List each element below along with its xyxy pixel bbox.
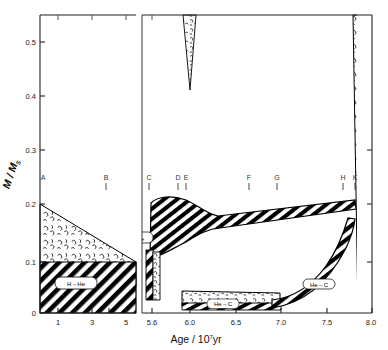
x-tick-label: 8.0 <box>366 318 376 327</box>
x-tick-label: 6.0 <box>185 318 195 327</box>
y-tick-label: 0.5 <box>26 38 36 47</box>
x-tick-label: 5 <box>124 318 128 327</box>
x-axis-title: Age / 107yr <box>170 333 222 345</box>
x-tick-label: 5.6 <box>147 318 157 327</box>
figure-canvas: H→He H→He He→C He→C <box>0 0 388 350</box>
kippenhahn-figure: H→He H→He He→C He→C <box>0 0 388 350</box>
phase-marker-label: D <box>175 174 180 181</box>
region-small-shell-stipple-near-C <box>153 252 160 300</box>
region-label-text: H→He <box>67 281 86 287</box>
region-small-shell-near-C <box>146 250 153 300</box>
x-tick-label: 7.5 <box>322 318 332 327</box>
phase-marker-label: B <box>104 174 109 181</box>
region-label-text: He→C <box>310 282 329 288</box>
phase-marker-A: A <box>41 174 46 181</box>
region-label-text: He→C <box>214 301 233 307</box>
region-label-he-to-c-band: He→C <box>207 299 239 309</box>
y-tick-label: 0.1 <box>26 258 36 267</box>
phase-marker-label: H <box>340 174 345 181</box>
phase-marker-label: E <box>184 174 189 181</box>
region-label-h-to-he-left: H→He <box>55 277 97 289</box>
phase-marker-label: A <box>41 174 46 181</box>
y-tick-label: 0.2 <box>26 200 36 209</box>
x-axis-title-text: Age / 107yr <box>170 333 222 345</box>
x-tick-label: 6.5 <box>231 318 241 327</box>
x-axis-title-prefix: Age / 10 <box>170 333 209 345</box>
phase-marker-label: K <box>353 174 358 181</box>
phase-marker-label: G <box>274 174 279 181</box>
y-tick-label: 0 <box>32 309 36 318</box>
phase-marker-label: F <box>247 174 251 181</box>
phase-marker-label: C <box>146 174 151 181</box>
x-axis-title-suffix: yr <box>213 333 222 345</box>
x-tick-label: 3 <box>90 318 94 327</box>
region-label-he-to-c-shell: He→C <box>303 279 335 289</box>
x-tick-label: 1 <box>56 318 60 327</box>
x-tick-label: 7.0 <box>276 318 286 327</box>
y-tick-label: 0.3 <box>26 146 36 155</box>
y-tick-label: 0.4 <box>26 92 36 101</box>
